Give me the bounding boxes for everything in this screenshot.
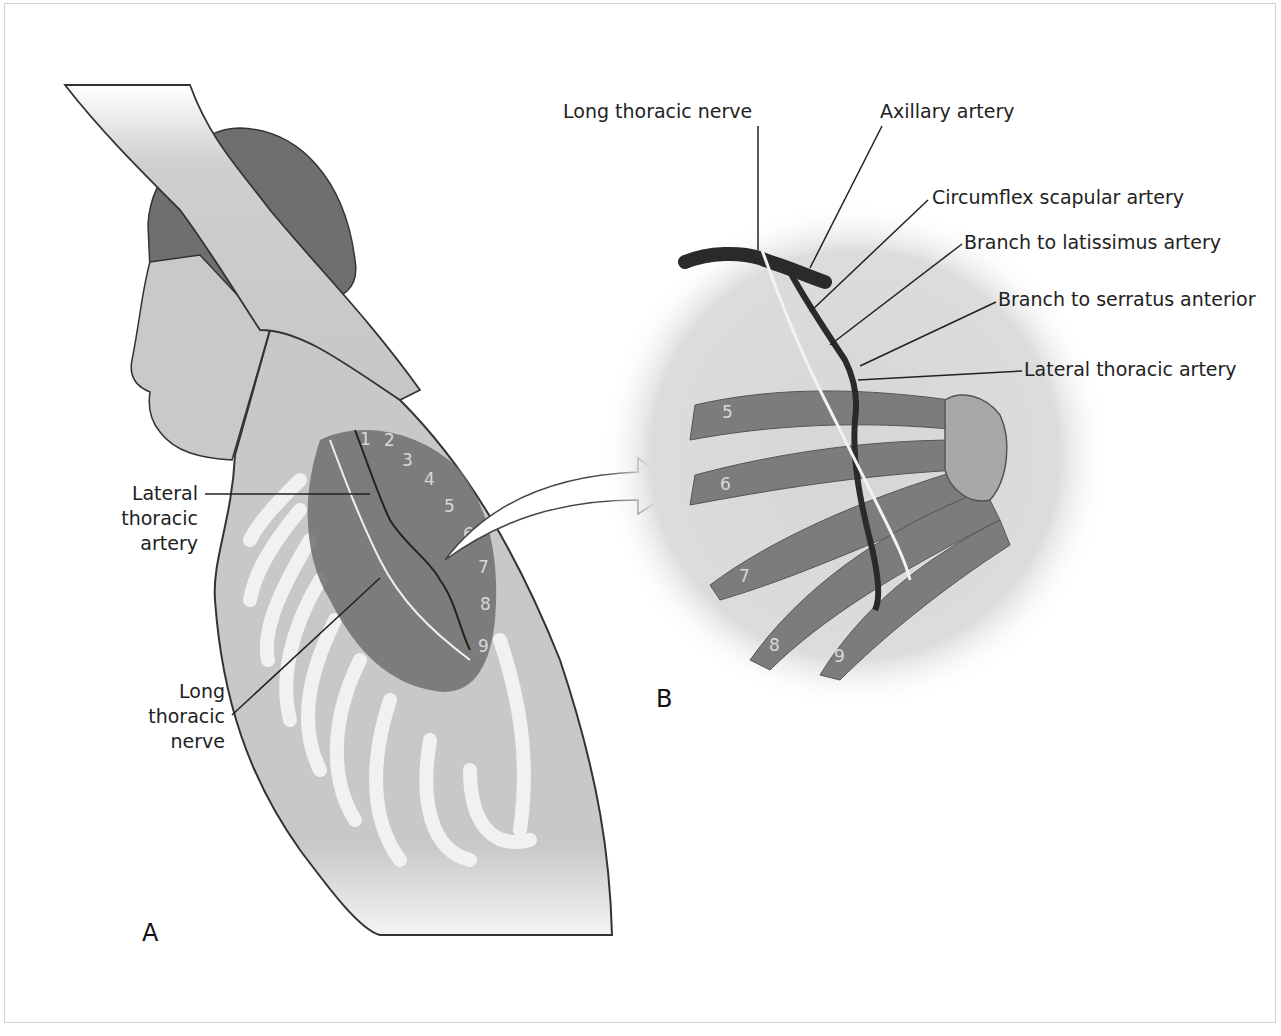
label-branch-to-serratus-anterior: Branch to serratus anterior [998, 287, 1255, 312]
label-line: thoracic [120, 506, 198, 531]
label-long-thoracic-nerve-a: Long thoracic nerve [140, 679, 225, 754]
label-lateral-thoracic-artery-a: Lateral thoracic artery [120, 481, 198, 556]
label-lateral-thoracic-artery-b: Lateral thoracic artery [1024, 357, 1237, 382]
label-line: thoracic [140, 704, 225, 729]
svg-text:1: 1 [360, 429, 371, 449]
svg-text:9: 9 [478, 636, 489, 656]
label-axillary-artery: Axillary artery [880, 99, 1014, 124]
panel-b-figure: 5 6 7 8 9 [600, 126, 1110, 710]
svg-text:4: 4 [424, 469, 435, 489]
svg-text:8: 8 [480, 594, 491, 614]
svg-text:8: 8 [769, 635, 780, 655]
svg-text:5: 5 [444, 496, 455, 516]
svg-text:5: 5 [722, 402, 733, 422]
svg-text:9: 9 [834, 646, 845, 666]
scapula-cut [945, 395, 1007, 501]
label-long-thoracic-nerve-b: Long thoracic nerve [563, 99, 752, 124]
svg-text:3: 3 [402, 450, 413, 470]
svg-text:7: 7 [478, 557, 489, 577]
label-line: nerve [140, 729, 225, 754]
label-line: artery [120, 531, 198, 556]
label-circumflex-scapular-artery: Circumflex scapular artery [932, 185, 1184, 210]
svg-text:2: 2 [384, 430, 395, 450]
label-line: Long [140, 679, 225, 704]
svg-text:7: 7 [739, 566, 750, 586]
svg-text:6: 6 [720, 474, 731, 494]
panel-label-a: A [142, 919, 158, 947]
panel-label-b: B [656, 685, 672, 713]
label-branch-to-latissimus-artery: Branch to latissimus artery [964, 230, 1221, 255]
label-line: Lateral [120, 481, 198, 506]
